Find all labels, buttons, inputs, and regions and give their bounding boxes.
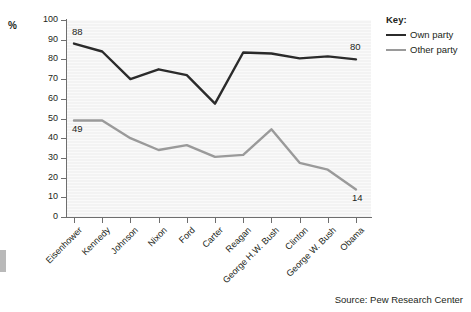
legend-entries: Own partyOther party — [386, 30, 471, 55]
legend-entry-label: Own party — [410, 30, 453, 40]
value-callout: 14 — [352, 193, 363, 203]
legend-entry: Other party — [386, 45, 471, 55]
chart-figure: % 1009080706050403020100 EisenhowerKenne… — [0, 0, 471, 312]
value-callout: 80 — [350, 42, 361, 52]
scan-edge-artifact — [0, 250, 6, 272]
legend: Key: Own partyOther party — [386, 14, 471, 60]
legend-title: Key: — [386, 14, 471, 25]
legend-entry: Own party — [386, 30, 471, 40]
value-callout: 49 — [72, 124, 83, 134]
legend-entry-label: Other party — [410, 45, 458, 55]
legend-line-swatch — [386, 34, 406, 37]
series-line-other-party — [74, 121, 356, 190]
legend-line-swatch — [386, 49, 406, 52]
value-callout: 88 — [72, 27, 83, 37]
series-line-own-party — [74, 44, 356, 104]
source-note: Source: Pew Research Center — [335, 294, 463, 305]
